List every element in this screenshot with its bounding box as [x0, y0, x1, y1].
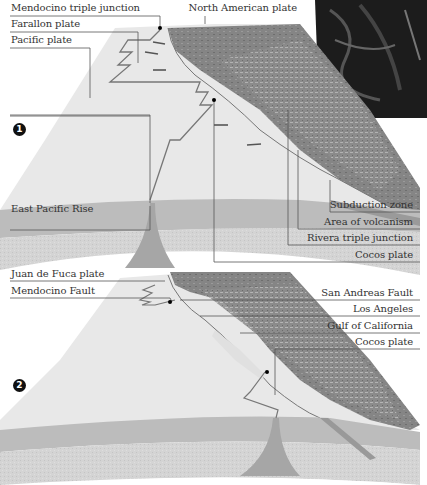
- panel-2-junction-marker: [265, 370, 269, 374]
- label-rivera-triple-junction: Rivera triple junction: [307, 232, 413, 244]
- label-area-of-volcanism: Area of volcanism: [324, 216, 413, 228]
- label-farallon-plate: Farallon plate: [11, 18, 80, 30]
- rivera-triple-junction-marker: [212, 98, 216, 102]
- label-gulf-of-california: Gulf of California: [327, 320, 413, 332]
- label-los-angeles: Los Angeles: [353, 303, 413, 315]
- label-pacific-plate: Pacific plate: [11, 34, 72, 46]
- stage-number-1: 1: [13, 123, 26, 136]
- mendocino-fault-marker: [168, 300, 172, 304]
- plate-tectonics-diagram: 1 2 Mendocino triple junction Farallon p…: [0, 0, 427, 485]
- label-cocos-plate-2: Cocos plate: [355, 336, 413, 348]
- label-north-american-plate: North American plate: [189, 2, 297, 14]
- label-cocos-plate-1: Cocos plate: [355, 249, 413, 261]
- label-east-pacific-rise: East Pacific Rise: [11, 203, 93, 215]
- label-mendocino-triple-junction: Mendocino triple junction: [11, 2, 140, 14]
- stage-number-2: 2: [13, 379, 26, 392]
- label-subduction-zone: Subduction zone: [330, 199, 413, 211]
- mendocino-triple-junction-marker: [158, 26, 162, 30]
- label-san-andreas-fault: San Andreas Fault: [321, 287, 413, 299]
- label-juan-de-fuca-plate: Juan de Fuca plate: [11, 268, 104, 280]
- label-mendocino-fault: Mendocino Fault: [11, 285, 95, 297]
